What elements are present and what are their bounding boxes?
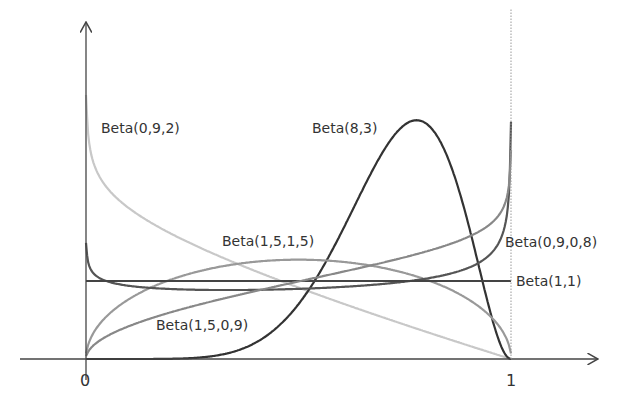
curve-beta-0-9-0-8-	[86, 122, 511, 290]
series-label: Beta(1,5,0,9)	[156, 317, 248, 333]
curve-beta-1-5-0-9-	[86, 150, 511, 356]
series-label: Beta(0,9,0,8)	[505, 234, 597, 250]
x-tick-1: 1	[506, 371, 516, 390]
series-label: Beta(8,3)	[312, 120, 377, 136]
series-label: Beta(0,9,2)	[101, 120, 180, 136]
series-labels: Beta(0,9,2)Beta(8,3)Beta(1,5,1,5)Beta(0,…	[101, 120, 597, 333]
series-label: Beta(1,1)	[516, 273, 581, 289]
x-tick-0: 0	[80, 371, 90, 390]
series-label: Beta(1,5,1,5)	[222, 233, 314, 249]
beta-distribution-chart: 0 1 Beta(0,9,2)Beta(8,3)Beta(1,5,1,5)Bet…	[0, 0, 620, 415]
